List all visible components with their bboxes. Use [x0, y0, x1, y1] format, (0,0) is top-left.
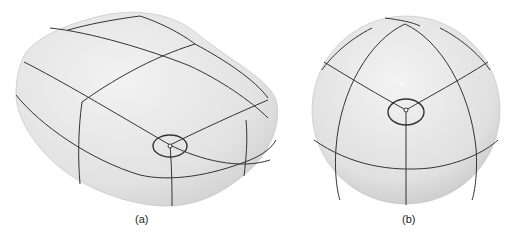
vertex-a	[168, 144, 172, 148]
figure: (a) (b)	[0, 0, 508, 236]
specular-highlight	[401, 83, 404, 86]
panel-b-shape	[312, 16, 500, 205]
caption-a: (a)	[135, 213, 148, 225]
panel-a-shape	[16, 12, 278, 206]
caption-b: (b)	[402, 213, 415, 225]
vertex-b	[404, 108, 408, 112]
figure-graphics	[0, 0, 508, 236]
